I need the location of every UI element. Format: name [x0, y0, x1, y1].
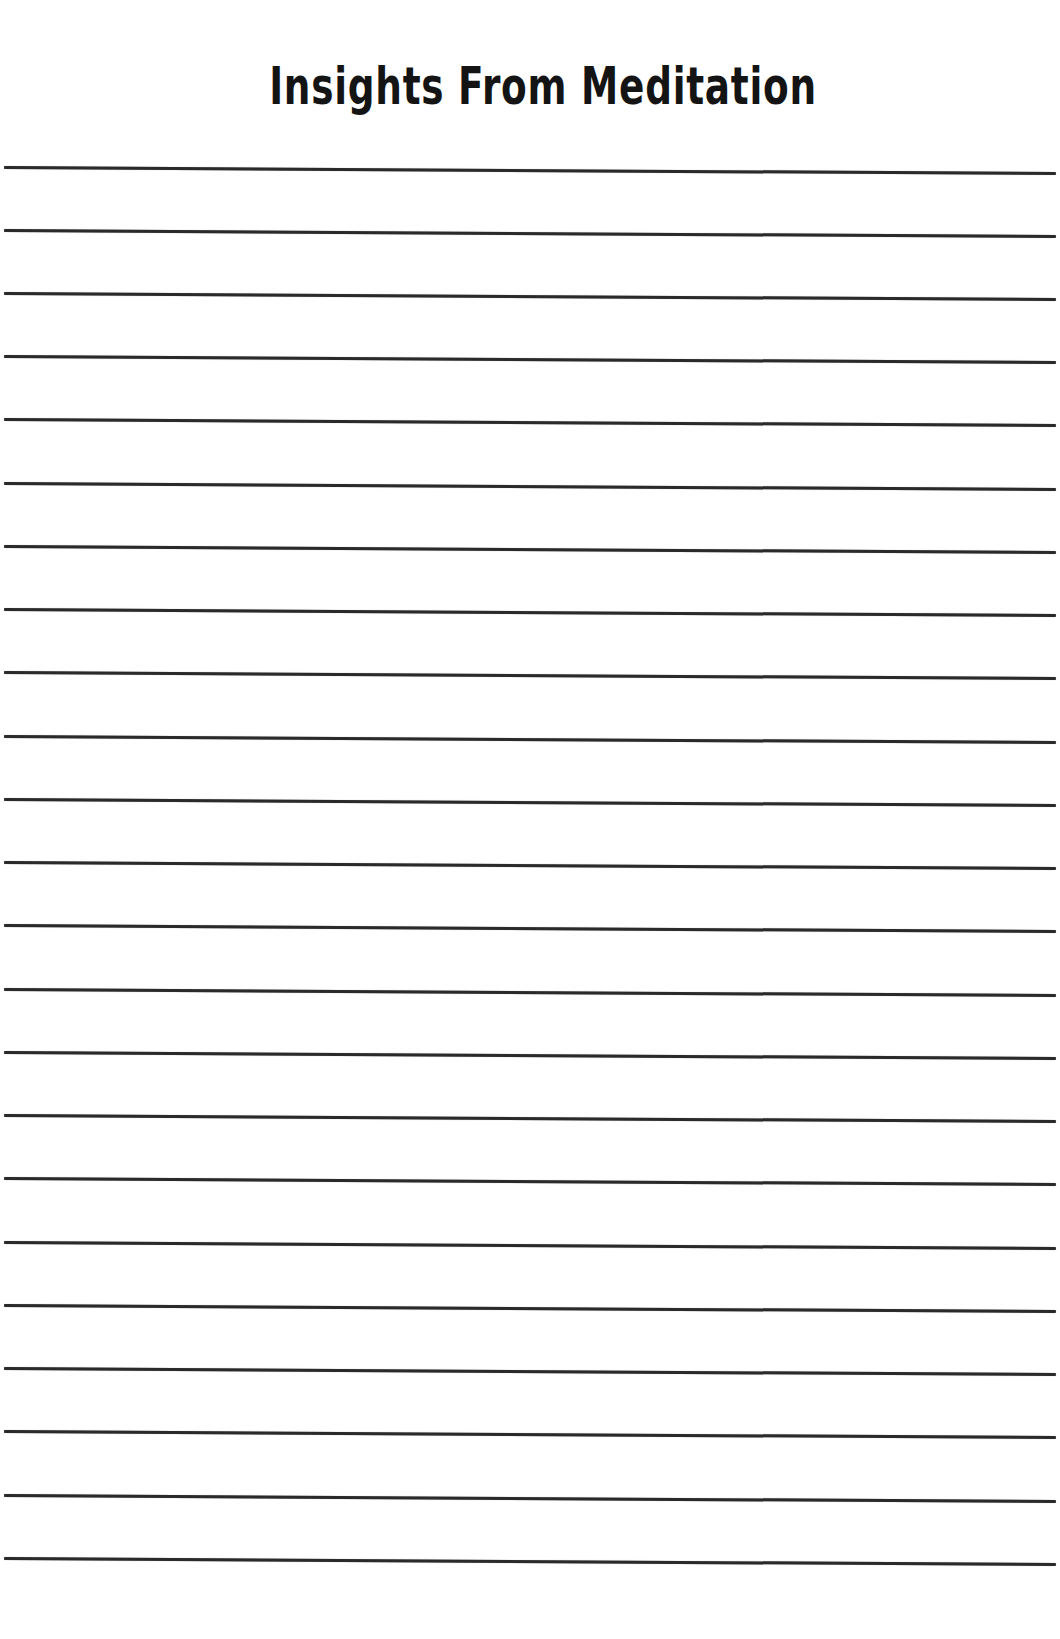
ruled-line	[4, 861, 1056, 870]
ruled-line	[4, 608, 1056, 617]
ruled-line	[4, 1051, 1056, 1060]
ruled-line	[4, 924, 1056, 933]
ruled-line	[4, 292, 1056, 301]
ruled-line	[4, 671, 1056, 680]
ruled-line	[4, 1177, 1056, 1186]
ruled-line	[4, 229, 1056, 238]
ruled-line	[4, 1494, 1056, 1503]
ruled-line	[4, 798, 1056, 807]
ruled-line	[4, 1241, 1056, 1250]
ruled-lines-area	[0, 0, 1060, 1639]
ruled-line	[4, 482, 1056, 491]
ruled-line	[4, 355, 1056, 364]
ruled-line	[4, 166, 1056, 175]
ruled-line	[4, 545, 1056, 554]
ruled-line	[4, 1430, 1056, 1439]
ruled-line	[4, 735, 1056, 744]
ruled-line	[4, 1114, 1056, 1123]
notebook-page: Insights From Meditation	[0, 0, 1060, 1639]
ruled-line	[4, 418, 1056, 427]
ruled-line	[4, 1304, 1056, 1313]
ruled-line	[4, 988, 1056, 997]
ruled-line	[4, 1367, 1056, 1376]
ruled-line	[4, 1557, 1056, 1566]
